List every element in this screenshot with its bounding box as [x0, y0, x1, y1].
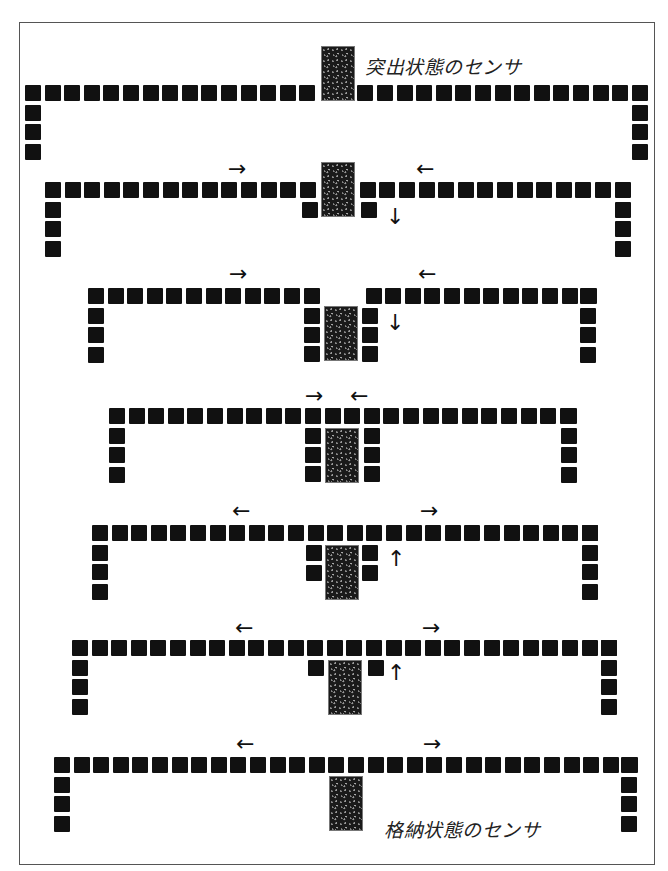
cover-block — [45, 182, 61, 198]
cover-block — [170, 640, 186, 656]
cover-corner-block — [615, 182, 631, 198]
cover-corner-block — [601, 640, 617, 656]
cover-block — [270, 757, 286, 773]
sensor-icon — [328, 660, 362, 715]
cover-block — [540, 408, 556, 424]
cover-block — [88, 288, 104, 304]
left-leg-block — [88, 308, 104, 324]
cover-block — [484, 640, 500, 656]
cover-block — [241, 182, 257, 198]
cover-block — [407, 757, 423, 773]
cover-block — [182, 85, 198, 101]
right-leg-block — [582, 564, 598, 580]
cover-block — [143, 85, 159, 101]
left-leg-block — [25, 105, 41, 121]
right-leg-block — [632, 105, 648, 121]
cover-block — [542, 288, 558, 304]
cover-block — [366, 640, 382, 656]
right-leg-block — [582, 584, 598, 600]
cover-block — [108, 288, 124, 304]
cover-block — [386, 525, 402, 541]
right-leg-block — [615, 241, 631, 257]
cover-block — [209, 640, 225, 656]
cover-block — [481, 408, 497, 424]
cover-corner-block — [621, 757, 637, 773]
left-leg-block — [45, 241, 61, 257]
left-leg-block — [72, 699, 88, 715]
right-leg-block — [561, 428, 577, 444]
cover-block — [442, 408, 458, 424]
cover-block — [65, 182, 81, 198]
cover-block — [206, 288, 222, 304]
cover-block — [575, 182, 591, 198]
cover-block — [221, 182, 237, 198]
cover-block — [289, 757, 305, 773]
cover-block — [542, 640, 558, 656]
cover-block — [288, 640, 304, 656]
cover-block — [260, 85, 276, 101]
right-leg-block — [601, 679, 617, 695]
right-leg-block — [580, 347, 596, 363]
arrow-right-icon: → — [305, 385, 323, 407]
arrow-down-icon: ↓ — [386, 312, 404, 334]
cover-block — [387, 757, 403, 773]
sensor-side-block — [305, 428, 321, 444]
cover-block — [304, 288, 320, 304]
sensor-side-block — [306, 565, 322, 581]
cover-block — [562, 640, 578, 656]
cover-block — [230, 757, 246, 773]
cover-block — [603, 757, 619, 773]
sensor-side-block — [362, 545, 378, 561]
arrow-right-icon: → — [422, 617, 440, 639]
cover-block — [170, 525, 186, 541]
cover-corner-block — [632, 85, 648, 101]
cover-block — [562, 525, 578, 541]
left-leg-block — [88, 327, 104, 343]
arrow-up-icon: ↑ — [387, 662, 405, 684]
left-leg-block — [92, 564, 108, 580]
cover-block — [163, 182, 179, 198]
right-leg-block — [580, 327, 596, 343]
arrow-right-icon: → — [423, 733, 441, 755]
cover-corner-block — [582, 525, 598, 541]
cover-block — [484, 525, 500, 541]
left-leg-block — [25, 124, 41, 140]
cover-block — [132, 757, 148, 773]
arrow-up-icon: ↑ — [387, 548, 405, 570]
cover-block — [92, 525, 108, 541]
cover-block — [162, 85, 178, 101]
cover-corner-block — [561, 408, 577, 424]
cover-block — [406, 525, 422, 541]
cover-block — [458, 182, 474, 198]
cover-block — [497, 182, 513, 198]
cover-block — [612, 85, 628, 101]
cover-block — [182, 182, 198, 198]
cover-block — [405, 640, 421, 656]
sensor-side-block — [362, 308, 378, 324]
cover-block — [92, 640, 108, 656]
sensor-icon — [325, 428, 359, 483]
cover-block — [84, 182, 100, 198]
cover-block — [436, 85, 452, 101]
sensor-side-block — [305, 466, 321, 482]
cover-block — [285, 408, 301, 424]
cover-block — [377, 85, 393, 101]
cover-block — [249, 525, 265, 541]
cover-block — [483, 288, 499, 304]
left-leg-block — [109, 447, 125, 463]
cover-block — [534, 85, 550, 101]
right-leg-block — [615, 202, 631, 218]
cover-block — [143, 182, 159, 198]
cover-block — [148, 408, 164, 424]
cover-block — [248, 640, 264, 656]
sensor-state-label: 突出状態のセンサ — [365, 52, 521, 79]
cover-block — [524, 757, 540, 773]
cover-block — [245, 288, 261, 304]
sensor-side-block — [364, 428, 380, 444]
cover-block — [111, 640, 127, 656]
cover-block — [475, 85, 491, 101]
cover-block — [131, 640, 147, 656]
cover-block — [246, 408, 262, 424]
cover-block — [328, 757, 344, 773]
cover-block — [227, 408, 243, 424]
